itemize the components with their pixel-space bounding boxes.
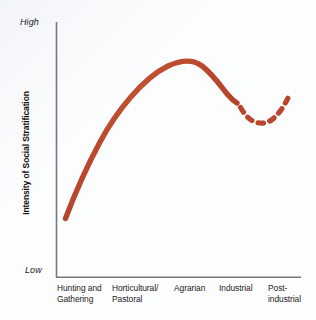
x-tick-label-hunting: Hunting and Gathering (57, 283, 102, 304)
chart-figure: High Low Intensity of Social Stratificat… (0, 0, 316, 320)
x-tick-horticultural-line2: Pastoral (112, 294, 158, 305)
x-tick-agrarian-line1: Agrarian (174, 283, 205, 293)
x-tick-label-agrarian: Agrarian (174, 283, 205, 294)
x-tick-hunting-line1: Hunting and (57, 283, 102, 293)
y-axis-low-label: Low (25, 265, 42, 275)
y-axis-title: Intensity of Social Stratification (21, 68, 31, 238)
x-tick-label-horticultural: Horticultural/ Pastoral (112, 283, 158, 304)
x-tick-postindustrial-line2: industrial (268, 294, 301, 305)
x-tick-horticultural-line1: Horticultural/ (112, 283, 158, 293)
x-tick-label-postindustrial: Post- industrial (268, 283, 301, 304)
x-tick-label-industrial: Industrial (219, 283, 252, 294)
x-tick-hunting-line2: Gathering (57, 294, 102, 305)
y-axis-high-label: High (20, 17, 39, 27)
x-tick-postindustrial-line1: Post- (268, 283, 287, 293)
stratification-curve-dashed (241, 97, 289, 123)
plot-area (0, 0, 316, 320)
stratification-curve-solid (66, 61, 238, 218)
x-tick-industrial-line1: Industrial (219, 283, 252, 293)
